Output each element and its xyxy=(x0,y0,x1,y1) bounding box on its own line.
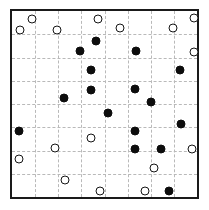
data-point-open xyxy=(168,24,177,33)
data-point-open xyxy=(95,187,104,196)
data-point-open xyxy=(189,13,198,22)
data-point-filled xyxy=(103,109,112,118)
data-point-open xyxy=(61,175,70,184)
data-point-open xyxy=(14,154,23,163)
data-point-open xyxy=(189,47,198,56)
plot-area xyxy=(10,9,199,199)
data-point-open xyxy=(93,15,102,24)
data-point-filled xyxy=(92,37,101,46)
data-point-open xyxy=(86,133,95,142)
data-point-open xyxy=(27,15,36,24)
scatter-plot-figure xyxy=(0,0,209,210)
points-layer xyxy=(12,11,197,197)
data-point-open xyxy=(16,25,25,34)
data-point-filled xyxy=(176,119,185,128)
data-point-filled xyxy=(14,126,23,135)
data-point-filled xyxy=(157,145,166,154)
data-point-filled xyxy=(60,94,69,103)
data-point-filled xyxy=(146,97,155,106)
data-point-filled xyxy=(175,66,184,75)
data-point-filled xyxy=(131,46,140,55)
data-point-filled xyxy=(76,46,85,55)
data-point-open xyxy=(50,144,59,153)
data-point-open xyxy=(115,24,124,33)
data-point-filled xyxy=(86,86,95,95)
data-point-filled xyxy=(130,84,139,93)
data-point-filled xyxy=(86,66,95,75)
data-point-open xyxy=(188,145,197,154)
data-point-filled xyxy=(130,145,139,154)
data-point-filled xyxy=(165,187,174,196)
data-point-filled xyxy=(130,126,139,135)
data-point-open xyxy=(53,25,62,34)
data-point-open xyxy=(150,163,159,172)
data-point-open xyxy=(140,187,149,196)
